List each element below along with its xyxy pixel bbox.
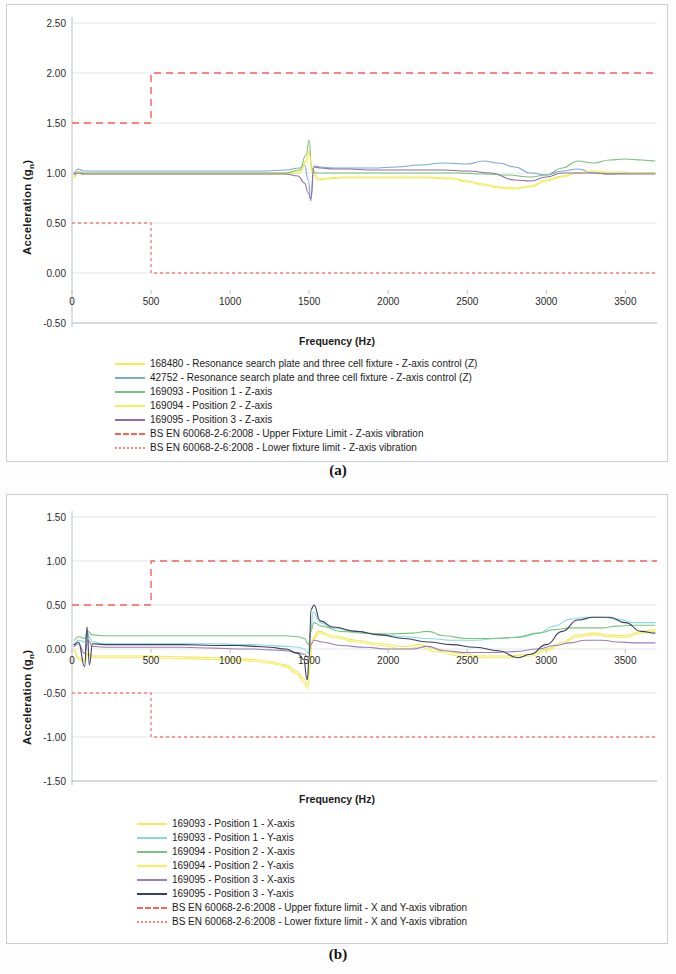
legend-label: 169093 - Position 1 - Y-axis — [172, 831, 294, 845]
series-line — [74, 630, 656, 685]
legend-item[interactable]: 169094 - Position 2 - Y-axis — [137, 859, 467, 873]
y-tick-label: 0.00 — [22, 268, 66, 279]
x-tick-label: 1500 — [298, 655, 320, 666]
series-line — [72, 223, 657, 273]
x-tick-label: 1000 — [219, 655, 241, 666]
legend-swatch — [137, 837, 167, 839]
x-tick-label: 3000 — [535, 655, 557, 666]
y-tick-label: 1.50 — [22, 512, 66, 523]
legend-label: 169093 - Position 1 - X-axis — [172, 817, 295, 831]
chart-panel-b: Acceleration (gn) 1.501.000.500.00-0.50-… — [6, 494, 668, 944]
x-tick-label: 2500 — [456, 655, 478, 666]
subfigure-caption-b: (b) — [0, 946, 676, 963]
legend-swatch — [137, 921, 167, 923]
legend-label: 169094 - Position 2 - Y-axis — [172, 859, 294, 873]
legend-swatch — [137, 823, 167, 825]
legend-label: 169093 - Position 1 - Z-axis — [150, 385, 272, 399]
legend-swatch — [115, 363, 145, 365]
y-tick-label: 2.50 — [22, 18, 66, 29]
series-line — [72, 693, 657, 737]
legend-item[interactable]: 169095 - Position 3 - Y-axis — [137, 887, 467, 901]
legend-swatch — [115, 419, 145, 421]
y-tick-label: -1.00 — [22, 732, 66, 743]
x-tick-label: 1500 — [298, 296, 320, 307]
legend-item[interactable]: 42752 - Resonance search plate and three… — [115, 371, 477, 385]
legend-swatch — [137, 907, 167, 909]
legend-label: 169095 - Position 3 - X-axis — [172, 873, 295, 887]
legend-item[interactable]: 169095 - Position 3 - X-axis — [137, 873, 467, 887]
x-tick-label: 2000 — [377, 655, 399, 666]
legend-swatch — [115, 377, 145, 379]
legend-swatch — [115, 433, 145, 435]
x-axis-label-a: Frequency (Hz) — [7, 335, 667, 347]
plot-area-b: Acceleration (gn) 1.501.000.500.00-0.50-… — [7, 495, 667, 943]
chart-legend-a: 168480 - Resonance search plate and thre… — [115, 357, 477, 455]
y-tick-label: 1.00 — [22, 168, 66, 179]
x-tick-label: 0 — [69, 655, 75, 666]
x-tick-label: 3500 — [614, 655, 636, 666]
legend-label: BS EN 60068-2-6:2008 - Upper fixture lim… — [172, 901, 467, 915]
legend-swatch — [115, 405, 145, 407]
legend-label: 169095 - Position 3 - Z-axis — [150, 413, 272, 427]
legend-label: BS EN 60068-2-6:2008 - Lower fixture lim… — [172, 915, 467, 929]
legend-swatch — [137, 851, 167, 853]
y-tick-label: 2.00 — [22, 68, 66, 79]
x-tick-label: 2500 — [456, 296, 478, 307]
series-line — [74, 161, 656, 201]
x-axis-label-b: Frequency (Hz) — [7, 793, 667, 805]
legend-label: 168480 - Resonance search plate and thre… — [150, 357, 477, 371]
x-tick-label: 500 — [143, 296, 160, 307]
legend-item[interactable]: BS EN 60068-2-6:2008 - Lower fixture lim… — [115, 441, 477, 455]
legend-item[interactable]: 169093 - Position 1 - X-axis — [137, 817, 467, 831]
y-tick-label: 1.50 — [22, 118, 66, 129]
legend-label: BS EN 60068-2-6:2008 - Upper Fixture Lim… — [150, 427, 423, 441]
subfigure-caption-a: (a) — [0, 462, 676, 479]
legend-swatch — [137, 879, 167, 881]
y-tick-label: 0.50 — [22, 218, 66, 229]
legend-item[interactable]: 169094 - Position 2 - Z-axis — [115, 399, 477, 413]
chart-legend-b: 169093 - Position 1 - X-axis169093 - Pos… — [137, 817, 467, 929]
y-tick-label: 0.50 — [22, 600, 66, 611]
legend-label: 169095 - Position 3 - Y-axis — [172, 887, 294, 901]
legend-swatch — [137, 893, 167, 895]
x-tick-label: 2000 — [377, 296, 399, 307]
plot-area-a: Acceleration (gn) 2.502.001.501.000.500.… — [7, 5, 667, 461]
figure-container: Acceleration (gn) 2.502.001.501.000.500.… — [0, 0, 676, 974]
legend-item[interactable]: 169095 - Position 3 - Z-axis — [115, 413, 477, 427]
y-tick-label: 1.00 — [22, 556, 66, 567]
y-tick-label: -0.50 — [22, 318, 66, 329]
legend-item[interactable]: BS EN 60068-2-6:2008 - Lower fixture lim… — [137, 915, 467, 929]
x-tick-label: 3500 — [614, 296, 636, 307]
legend-item[interactable]: 168480 - Resonance search plate and thre… — [115, 357, 477, 371]
series-line — [72, 561, 657, 605]
legend-item[interactable]: 169093 - Position 1 - Z-axis — [115, 385, 477, 399]
x-tick-label: 3000 — [535, 296, 557, 307]
x-tick-label: 1000 — [219, 296, 241, 307]
legend-label: 42752 - Resonance search plate and three… — [150, 371, 472, 385]
legend-swatch — [115, 447, 145, 449]
legend-item[interactable]: 169093 - Position 1 - Y-axis — [137, 831, 467, 845]
legend-item[interactable]: BS EN 60068-2-6:2008 - Upper fixture lim… — [137, 901, 467, 915]
legend-item[interactable]: 169094 - Position 2 - X-axis — [137, 845, 467, 859]
legend-swatch — [137, 865, 167, 867]
series-line — [72, 73, 657, 123]
y-tick-label: -0.50 — [22, 688, 66, 699]
series-line — [74, 167, 656, 199]
x-tick-label: 0 — [69, 296, 75, 307]
legend-label: 169094 - Position 2 - Z-axis — [150, 399, 272, 413]
legend-label: 169094 - Position 2 - X-axis — [172, 845, 295, 859]
chart-panel-a: Acceleration (gn) 2.502.001.501.000.500.… — [6, 4, 668, 462]
x-tick-label: 500 — [143, 655, 160, 666]
y-tick-label: 0.00 — [22, 644, 66, 655]
legend-label: BS EN 60068-2-6:2008 - Lower fixture lim… — [150, 441, 417, 455]
y-tick-label: -1.50 — [22, 776, 66, 787]
legend-item[interactable]: BS EN 60068-2-6:2008 - Upper Fixture Lim… — [115, 427, 477, 441]
legend-swatch — [115, 391, 145, 393]
